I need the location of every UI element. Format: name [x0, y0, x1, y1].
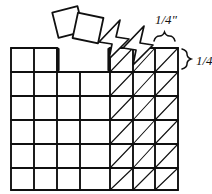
fabric-squares-group: [52, 6, 103, 43]
top-measure-fraction: 1/4": [155, 12, 178, 27]
right-brace-icon: [182, 49, 191, 69]
notch-shoulder-ticks: [58, 49, 109, 70]
right-measure-annotation: 1/4": [182, 49, 212, 69]
quarter-inch-grid-diagram: 1/4" 1/4": [0, 0, 212, 194]
fabric-square-right: [73, 13, 104, 44]
top-brace-icon: [154, 32, 175, 41]
top-measure-annotation: 1/4": [154, 12, 178, 41]
diagram-canvas: 1/4" 1/4": [0, 0, 212, 194]
arrow-left-icon: [99, 20, 129, 59]
top-measure-label: 1/4": [155, 12, 178, 27]
grid-group: [11, 48, 178, 190]
right-measure-label: 1/4": [196, 53, 212, 68]
arrow-right-icon: [123, 26, 153, 65]
right-measure-fraction: 1/4": [196, 53, 212, 68]
grid-horizontal-lines: [11, 48, 178, 190]
